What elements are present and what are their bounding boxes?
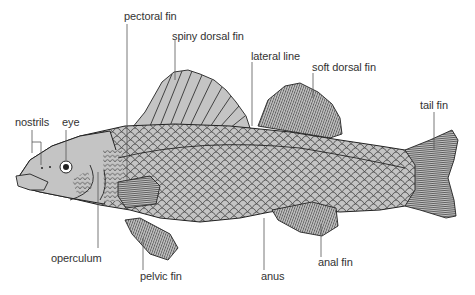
pectoral-fin-shape [118, 176, 160, 208]
label-anal-fin: anal fin [318, 256, 353, 268]
label-pectoral-fin: pectoral fin [124, 10, 177, 22]
label-lateral-line: lateral line [251, 50, 300, 62]
label-soft-dorsal-fin: soft dorsal fin [312, 61, 376, 73]
label-tail-fin: tail fin [420, 99, 448, 111]
spiny-dorsal-fin-shape [132, 70, 250, 128]
label-operculum: operculum [51, 252, 101, 264]
fish-illustration [0, 0, 475, 295]
label-anus: anus [261, 270, 284, 282]
fish-anatomy-diagram: pectoral fin spiny dorsal fin lateral li… [0, 0, 475, 295]
pelvic-fin-shape [125, 218, 178, 260]
label-pelvic-fin: pelvic fin [140, 270, 182, 282]
label-eye: eye [62, 116, 79, 128]
label-nostrils: nostrils [15, 116, 49, 128]
label-spiny-dorsal-fin: spiny dorsal fin [172, 30, 244, 42]
